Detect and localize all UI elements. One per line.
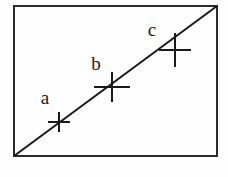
point-label-b: b (91, 53, 101, 74)
figure-container: a b c (0, 0, 228, 177)
scatter-plot-diagram: a b c (0, 0, 228, 177)
point-label-c: c (148, 19, 156, 40)
point-label-a: a (41, 87, 50, 108)
